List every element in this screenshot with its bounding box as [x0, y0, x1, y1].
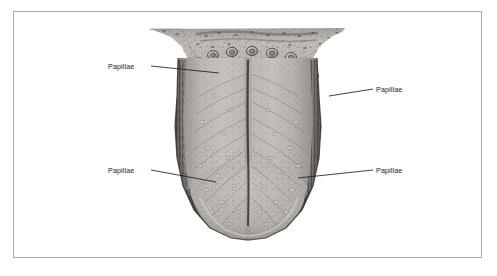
- tongue-engraving-svg: [0, 0, 497, 276]
- page-canvas: Papillae Papillae Papillae Papillae: [0, 0, 497, 276]
- leader-papillae-bottom-right: [298, 170, 373, 178]
- label-papillae-top-left: Papillae: [108, 62, 134, 71]
- circumvallate-papillae-group: [194, 46, 319, 80]
- leader-papillae-bottom-left: [151, 170, 216, 182]
- tongue-body: [170, 55, 326, 249]
- leader-papillae-top-right: [329, 89, 373, 96]
- label-papillae-top-right: Papillae: [376, 85, 402, 94]
- label-papillae-bottom-left: Papillae: [108, 166, 134, 175]
- tongue-illustration: Papillae Papillae Papillae Papillae: [0, 0, 497, 276]
- leader-papillae-top-left: [151, 66, 219, 73]
- leader-lines: [151, 66, 373, 182]
- label-papillae-bottom-right: Papillae: [376, 166, 402, 175]
- tongue-base-region: [148, 26, 348, 72]
